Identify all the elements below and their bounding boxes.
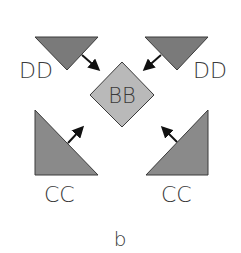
bottom-left-cc-node: CC xyxy=(35,110,98,207)
arrow-top-right-to-center xyxy=(145,55,161,69)
right-triangle-shape xyxy=(146,110,208,175)
top-right-dd-label: DD xyxy=(193,58,227,83)
bottom-left-cc-label: CC xyxy=(44,182,75,207)
center-bb-node: BB xyxy=(90,62,154,127)
top-left-dd-node: DD xyxy=(19,37,98,83)
top-right-dd-node: DD xyxy=(145,37,227,83)
diagram-canvas: DD DD BB CC CC b xyxy=(0,0,241,253)
bottom-right-cc-label: CC xyxy=(161,182,192,207)
bottom-right-cc-node: CC xyxy=(146,110,208,207)
panel-label: b xyxy=(114,227,127,251)
arrow-bottom-left-to-center xyxy=(68,128,82,143)
arrow-bottom-right-to-center xyxy=(163,128,177,142)
arrow-top-left-to-center xyxy=(82,55,98,69)
top-left-dd-label: DD xyxy=(19,58,53,83)
center-bb-label: BB xyxy=(108,84,136,108)
right-triangle-shape xyxy=(35,110,98,175)
